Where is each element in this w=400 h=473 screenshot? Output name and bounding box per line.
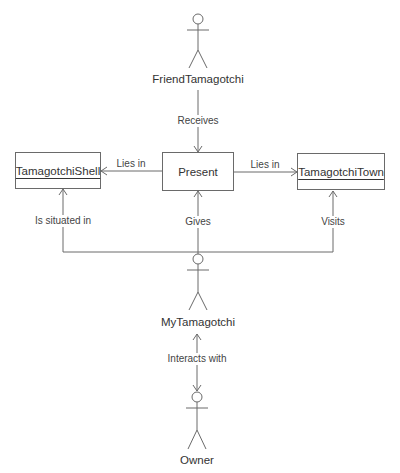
relation-label-lies-in-right: Lies in [249, 159, 282, 171]
object-present: Present [162, 152, 234, 191]
actor-owner-figure [186, 392, 208, 449]
object-label: TamagotchiTown [298, 166, 384, 178]
diagram-canvas [0, 0, 400, 473]
relation-label-lies-in-left: Lies in [115, 158, 148, 170]
relation-label-receives: Receives [175, 115, 220, 127]
relation-label-interacts-with: Interacts with [166, 353, 229, 365]
actor-friend-figure [187, 14, 209, 68]
relation-label-visits: Visits [319, 216, 347, 228]
actor-label-friend: FriendTamagotchi [152, 72, 243, 86]
object-tamagotchi-shell: TamagotchiShell [15, 152, 101, 189]
relation-label-gives: Gives [183, 216, 213, 228]
actor-my-figure [187, 254, 209, 310]
object-tamagotchi-town: TamagotchiTown [297, 153, 385, 190]
object-label: Present [178, 166, 218, 178]
relation-label-is-situated-in: Is situated in [33, 215, 93, 227]
actor-label-owner: Owner [180, 453, 214, 467]
object-label: TamagotchiShell [16, 165, 100, 177]
actor-label-my: MyTamagotchi [161, 315, 235, 329]
